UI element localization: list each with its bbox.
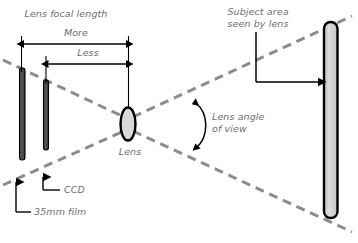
ray-lower-right [133,131,352,232]
less-label: Less [60,47,116,59]
film-label: 35mm film [34,206,86,218]
lens-label: Lens [110,146,150,158]
angle-of-view-arc [196,103,206,148]
ccd-leader [43,177,60,190]
subject-area-label-line2: seen by lens [212,18,304,30]
subject-area-leader [256,32,318,82]
film-leader [16,182,31,212]
diagram-canvas: Lens focal length More Less Lens CCD 35m… [0,0,358,243]
ray-upper-right [133,16,352,117]
ccd-label: CCD [64,184,85,196]
lens-element [121,108,136,141]
angle-of-view-label-line1: Lens angle [212,111,265,123]
more-label: More [48,27,104,39]
subject-area-label-line1: Subject area [212,6,304,18]
diagram-title: Lens focal length [18,8,114,20]
subject-plane [324,22,338,218]
ray-group [3,16,352,232]
film-plane [20,68,26,160]
angle-of-view-label-line2: of view [212,123,247,135]
ccd-plane [44,80,49,150]
